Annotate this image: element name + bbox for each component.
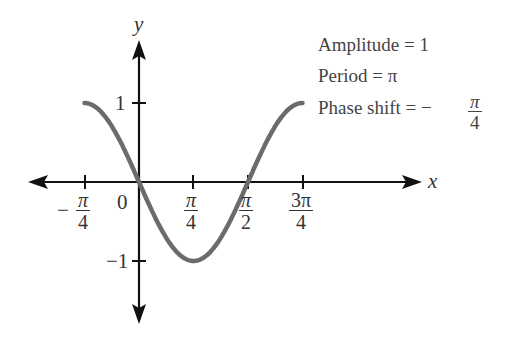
origin-label: 0 <box>117 192 128 213</box>
x-tick-label-3pi-4: 3π 4 <box>289 190 313 232</box>
frac-num: π <box>184 190 198 211</box>
frac-num: π <box>468 92 482 112</box>
annotation-period: Period = π <box>318 66 397 85</box>
frac-den: 4 <box>470 112 480 132</box>
annotation-phase-shift: Phase shift = − <box>318 98 432 117</box>
phase-shift-prefix: Phase shift = − <box>318 97 432 118</box>
y-tick-label-1: 1 <box>115 93 126 114</box>
frac-den: 4 <box>78 211 88 232</box>
x-tick-label-pi-2: π 2 <box>239 190 253 232</box>
phase-shift-fraction: π 4 <box>468 92 482 132</box>
y-tick-label-neg-1: −1 <box>106 251 128 272</box>
y-axis-label: y <box>134 14 143 35</box>
x-tick-label-pi-4: π 4 <box>184 190 198 232</box>
frac-den: 4 <box>186 211 196 232</box>
frac-num: 3π <box>289 190 313 211</box>
neg-sign: − <box>57 200 69 221</box>
frac-num: π <box>76 190 90 211</box>
annotation-amplitude: Amplitude = 1 <box>318 35 429 54</box>
frac-den: 2 <box>241 211 251 232</box>
x-tick-label-neg-pi-4: π 4 <box>76 190 90 232</box>
frac-den: 4 <box>296 211 306 232</box>
x-axis-label: x <box>428 171 437 192</box>
frac-num: π <box>239 190 253 211</box>
